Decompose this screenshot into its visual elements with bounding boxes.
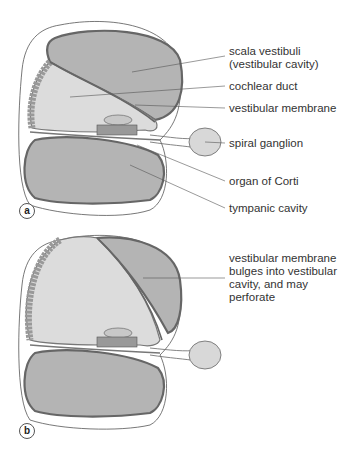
- label-vestibular-membrane-bulges: vestibular membrane bulges into vestibul…: [229, 252, 337, 304]
- panel-b-badge: b: [19, 423, 35, 439]
- label-scala-vestibuli: scala vestibuli (vestibular cavity): [229, 45, 318, 71]
- label-vestibular-membrane: vestibular membrane: [229, 102, 336, 115]
- panel-b-illustration: [19, 235, 225, 429]
- tectorial-membrane: [104, 328, 132, 338]
- label-spiral-ganglion: spiral ganglion: [229, 137, 303, 150]
- organ-of-corti: [97, 337, 137, 347]
- label-organ-of-corti: organ of Corti: [229, 175, 299, 188]
- spiral-ganglion: [189, 341, 221, 369]
- panel-a-badge: a: [19, 203, 35, 219]
- label-tympanic-cavity: tympanic cavity: [229, 202, 308, 215]
- tectorial-membrane: [104, 115, 132, 125]
- organ-of-corti: [97, 125, 137, 135]
- label-cochlear-duct: cochlear duct: [229, 80, 297, 93]
- panel-a-illustration: [19, 21, 225, 215]
